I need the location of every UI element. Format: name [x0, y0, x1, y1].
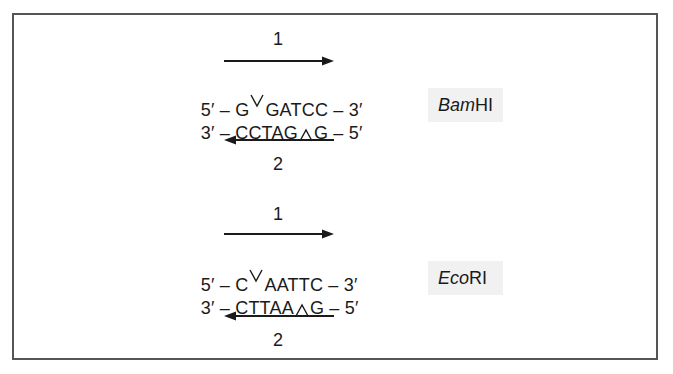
arrow-1-label: 1 [268, 30, 288, 48]
arrow-right-icon [224, 229, 336, 239]
enzyme-name-roman: RI [469, 268, 487, 288]
arrow-right-icon [224, 56, 336, 66]
arrow-2-label: 2 [268, 155, 288, 173]
arrow-1-label: 1 [268, 205, 288, 223]
arrow-left-icon [224, 135, 336, 145]
enzyme-name-italic: Eco [438, 268, 469, 288]
bottom-strand: 3′ – CCTAGG – 5′ [180, 103, 362, 163]
enzyme-label-bamhi: BamHI [428, 88, 503, 122]
arrow-left-icon [224, 311, 336, 321]
arrow-2-label: 2 [268, 331, 288, 349]
enzyme-label-ecori: EcoRI [428, 261, 503, 295]
enzyme-name-italic: Bam [438, 95, 475, 115]
enzyme-name-roman: HI [475, 95, 493, 115]
bottom-strand: 3′ – CTTAAG – 5′ [180, 278, 359, 338]
